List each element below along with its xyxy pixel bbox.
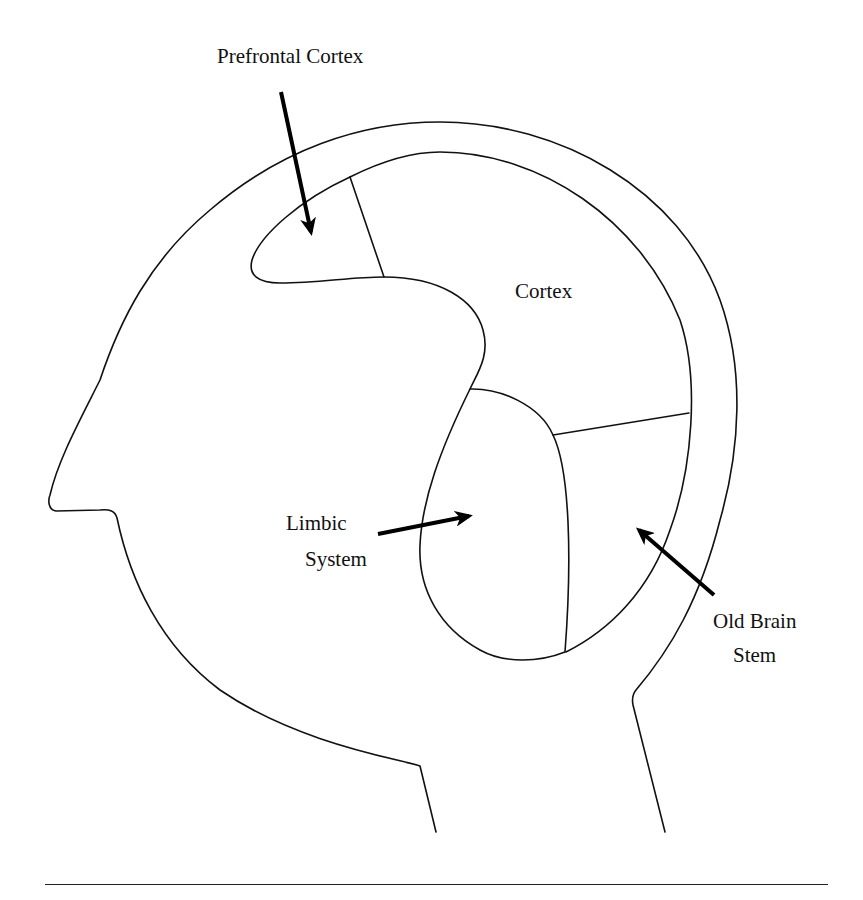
brain-diagram [0, 0, 863, 900]
label-system: System [305, 547, 367, 571]
prefrontal-fold [251, 177, 485, 389]
label-old-brain: Old Brain [713, 609, 796, 633]
label-cortex: Cortex [515, 279, 572, 303]
old-brain-divider [553, 413, 689, 435]
label-stem: Stem [733, 643, 776, 667]
bottom-rule [45, 884, 828, 885]
old-brain-arrow [639, 530, 714, 595]
limbic-outline [420, 389, 569, 660]
head-outline [49, 122, 737, 832]
prefrontal-arrow [281, 92, 311, 232]
label-limbic: Limbic [286, 511, 347, 535]
prefrontal-divider [350, 177, 384, 277]
label-prefrontal-cortex: Prefrontal Cortex [217, 44, 363, 68]
